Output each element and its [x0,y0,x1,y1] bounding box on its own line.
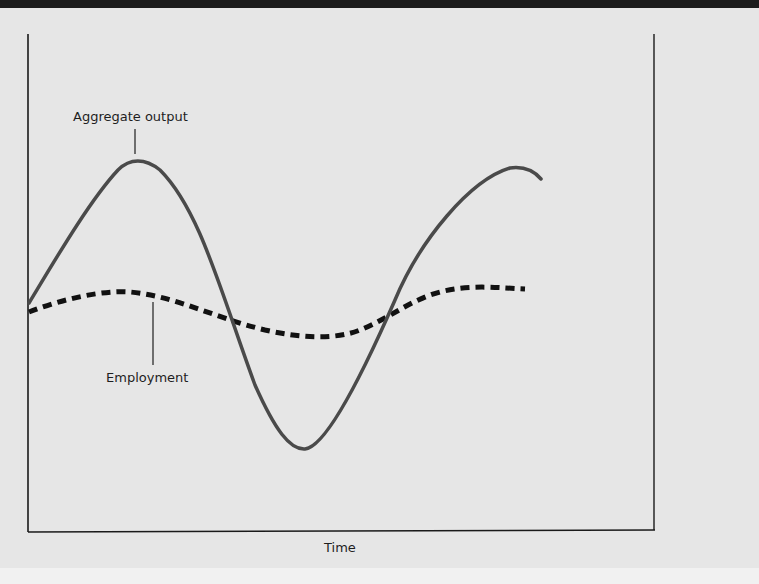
business-cycle-chart: Aggregate output Employment Time [0,0,759,584]
aggregate-output-annotation: Aggregate output [73,109,188,154]
scan-bottom-edge [0,568,759,584]
employment-annotation: Employment [106,302,188,385]
employment-label: Employment [106,370,188,385]
aggregate-output-label: Aggregate output [73,109,188,124]
x-axis-label: Time [323,540,356,555]
aggregate-output-line [29,161,541,449]
x-axis [28,530,655,532]
employment-line [29,287,525,337]
